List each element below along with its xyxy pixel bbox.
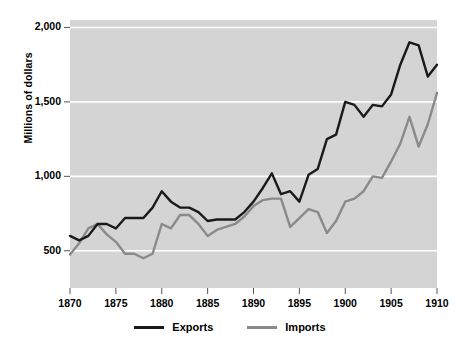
x-axis-tick-label: 1905: [369, 298, 413, 309]
legend-swatch-exports: [134, 326, 164, 329]
x-axis-tick-label: 1880: [140, 298, 184, 309]
legend-swatch-imports: [247, 326, 277, 329]
legend-item-imports[interactable]: Imports: [247, 322, 325, 333]
x-axis-tick-label: 1875: [94, 298, 138, 309]
chart-container: Millions of dollars 5001,0001,5002,000 1…: [0, 0, 460, 344]
legend-label: Exports: [172, 322, 213, 333]
x-axis-tick-label: 1890: [232, 298, 276, 309]
x-axis-tick-label: 1885: [186, 298, 230, 309]
plot-background: [70, 20, 437, 288]
legend-item-exports[interactable]: Exports: [134, 322, 213, 333]
x-axis-tick-label: 1870: [48, 298, 92, 309]
x-axis-tick-label: 1910: [415, 298, 459, 309]
plot-area: [0, 0, 460, 344]
x-axis-tick-label: 1900: [323, 298, 367, 309]
chart-legend: ExportsImports: [0, 322, 460, 333]
x-axis-tick-label: 1895: [277, 298, 321, 309]
legend-label: Imports: [285, 322, 325, 333]
